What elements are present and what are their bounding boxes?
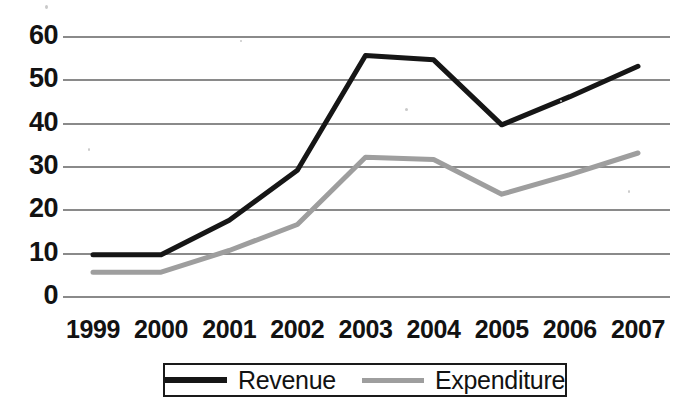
- x-tick-label-2007: 2007: [598, 312, 678, 346]
- scan-speckle: [45, 5, 48, 9]
- y-tick-label-50: 50: [4, 65, 58, 92]
- series-layer: [63, 36, 670, 296]
- legend-label-expenditure: Expenditure: [435, 368, 565, 393]
- series-line-expenditure: [93, 153, 638, 272]
- legend-item-expenditure[interactable]: Expenditure: [362, 368, 565, 393]
- y-tick-label-0: 0: [4, 282, 58, 309]
- legend-label-revenue: Revenue: [238, 368, 336, 393]
- x-axis: 199920002001200220032004200520062007: [63, 312, 670, 346]
- y-tick-label-20: 20: [4, 195, 58, 222]
- y-axis: 6050403020100: [0, 36, 58, 296]
- chart-legend: RevenueExpenditure: [163, 363, 567, 397]
- expenditure-line-swatch: [362, 378, 424, 383]
- y-tick-label-40: 40: [4, 109, 58, 136]
- y-tick-label-10: 10: [4, 239, 58, 266]
- y-tick-label-60: 60: [4, 22, 58, 49]
- y-tick-label-30: 30: [4, 152, 58, 179]
- plot-area: [63, 36, 670, 296]
- legend-item-revenue[interactable]: Revenue: [165, 368, 336, 393]
- revenue-line-swatch: [165, 377, 227, 383]
- gridline-0: [63, 296, 670, 298]
